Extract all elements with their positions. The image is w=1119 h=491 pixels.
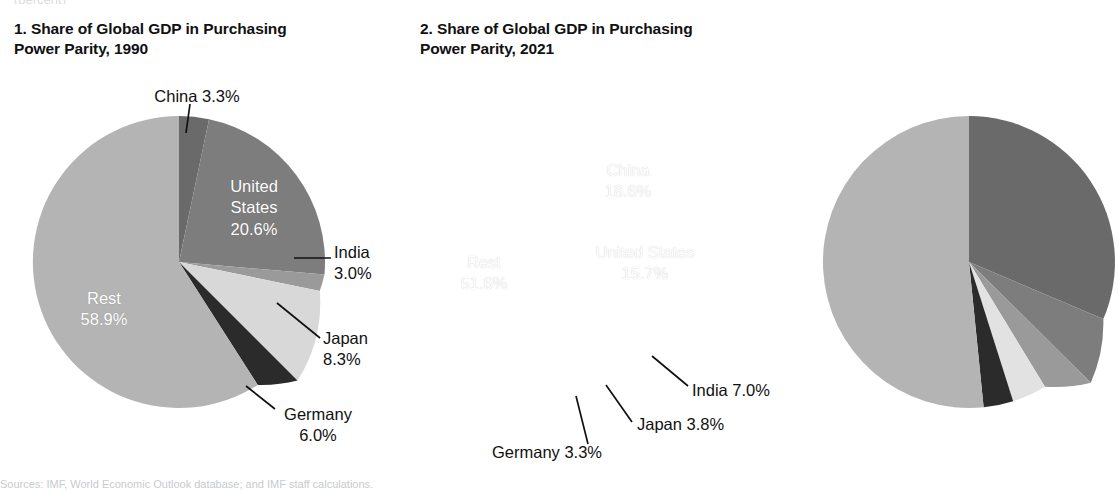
label-rest-2: Rest 51.6% bbox=[424, 252, 544, 295]
leader-germany bbox=[576, 396, 588, 444]
callout-japan-1: Japan 8.3% bbox=[323, 328, 403, 370]
source-note-text: Sources: IMF, World Economic Outlook dat… bbox=[0, 480, 796, 491]
callout-japan-2: Japan 3.8% bbox=[637, 414, 757, 435]
leader-japan bbox=[606, 385, 632, 422]
leader-india bbox=[652, 356, 688, 386]
callout-india-2: India 7.0% bbox=[692, 380, 802, 401]
pie-chart-1 bbox=[29, 112, 329, 412]
source-note: Sources: IMF, World Economic Outlook dat… bbox=[0, 480, 796, 491]
label-united-states-2: United States 15.7% bbox=[570, 242, 720, 285]
slice-rest bbox=[823, 116, 984, 408]
label-united-states-1: United States 20.6% bbox=[196, 176, 312, 240]
pie-chart-2-svg bbox=[819, 112, 1119, 412]
panel-1-title: 1. Share of Global GDP in Purchasing Pow… bbox=[14, 19, 354, 59]
pie-chart-2 bbox=[819, 112, 1119, 412]
label-china-2: China 18.6% bbox=[563, 160, 693, 203]
callout-germany-1: Germany 6.0% bbox=[258, 404, 378, 446]
callout-germany-2: Germany 3.3% bbox=[492, 442, 662, 463]
callout-china-1: China 3.3% bbox=[127, 86, 267, 107]
callout-india-1: India 3.0% bbox=[334, 242, 404, 284]
chart-panel-1: 1. Share of Global GDP in Purchasing Pow… bbox=[0, 0, 398, 491]
pie-chart-1-svg bbox=[29, 112, 329, 412]
label-rest-1: Rest 58.9% bbox=[44, 288, 164, 331]
panel-2-title: 2. Share of Global GDP in Purchasing Pow… bbox=[420, 19, 770, 59]
chart-panel-2: 2. Share of Global GDP in Purchasing Pow… bbox=[398, 0, 796, 491]
